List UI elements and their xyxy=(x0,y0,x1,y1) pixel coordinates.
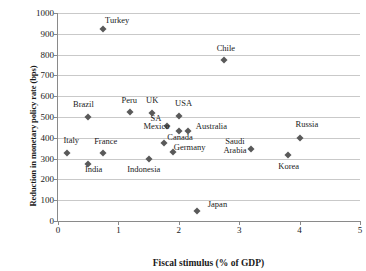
gridline xyxy=(58,34,360,35)
data-point xyxy=(221,56,228,63)
data-point-label: Australia xyxy=(196,122,227,131)
y-tick-mark xyxy=(54,117,58,118)
x-axis-title: Fiscal stimulus (% of GDP) xyxy=(57,258,360,268)
gridline xyxy=(58,159,360,160)
data-point-label: Turkey xyxy=(105,16,129,25)
y-tick-label: 700 xyxy=(41,71,55,80)
y-tick-mark xyxy=(54,159,58,160)
data-point-label: France xyxy=(94,137,117,146)
data-point-label: Chile xyxy=(217,44,235,53)
y-tick-mark xyxy=(54,34,58,35)
data-point-label: UK xyxy=(146,96,158,105)
x-tick-label: 5 xyxy=(358,226,363,235)
gridline xyxy=(58,75,360,76)
data-point xyxy=(248,146,255,153)
y-tick-label: 900 xyxy=(41,29,55,38)
x-tick-label: 2 xyxy=(177,226,182,235)
data-point xyxy=(175,112,182,119)
x-tick-label: 3 xyxy=(237,226,242,235)
data-point-label: Germany xyxy=(174,143,206,152)
gridline xyxy=(58,13,360,14)
data-point-label: Russia xyxy=(296,120,319,129)
y-tick-label: 100 xyxy=(41,196,55,205)
y-tick-mark xyxy=(54,200,58,201)
y-tick-label: 300 xyxy=(41,154,55,163)
scatter-chart: Reduction in monetary policy rate (bps) … xyxy=(0,0,366,271)
gridline xyxy=(58,96,360,97)
data-point xyxy=(85,113,92,120)
x-tick-label: 4 xyxy=(297,226,302,235)
gridline xyxy=(58,117,360,118)
data-point xyxy=(193,207,200,214)
data-point xyxy=(296,134,303,141)
x-tick-label: 1 xyxy=(116,226,121,235)
y-tick-label: 600 xyxy=(41,92,55,101)
data-point-label: Brazil xyxy=(73,100,94,109)
data-point-label: Indonesia xyxy=(127,165,160,174)
gridline xyxy=(58,179,360,180)
y-tick-mark xyxy=(54,75,58,76)
y-tick-mark xyxy=(54,96,58,97)
data-point-label: USA xyxy=(175,99,192,108)
data-point-label: Korea xyxy=(278,162,299,171)
data-point-label: Japan xyxy=(208,200,227,209)
data-point-label: Mexico xyxy=(143,122,169,131)
x-tick-label: 0 xyxy=(56,226,61,235)
gridline xyxy=(58,55,360,56)
y-tick-label: 1000 xyxy=(36,9,54,18)
data-point xyxy=(127,108,134,115)
data-point-label: India xyxy=(85,165,102,174)
y-tick-label: 500 xyxy=(41,113,55,122)
y-tick-mark xyxy=(54,55,58,56)
y-tick-mark xyxy=(54,138,58,139)
y-tick-label: 200 xyxy=(41,175,55,184)
data-point-label: Italy xyxy=(63,136,79,145)
y-tick-mark xyxy=(54,179,58,180)
y-tick-label: 400 xyxy=(41,133,55,142)
plot-area: 01002003004005006007008009001000012345Tu… xyxy=(57,13,360,222)
data-point xyxy=(64,150,71,157)
data-point xyxy=(160,139,167,146)
y-tick-mark xyxy=(54,13,58,14)
data-point xyxy=(100,150,107,157)
y-tick-label: 0 xyxy=(50,217,55,226)
data-point xyxy=(145,155,152,162)
data-point-label: Saudi Arabia xyxy=(223,137,246,154)
data-point xyxy=(100,25,107,32)
y-tick-label: 800 xyxy=(41,50,55,59)
data-point-label: Peru xyxy=(121,96,137,105)
y-axis-title: Reduction in monetary policy rate (bps) xyxy=(28,41,38,231)
data-point-label: Canada xyxy=(167,133,193,142)
